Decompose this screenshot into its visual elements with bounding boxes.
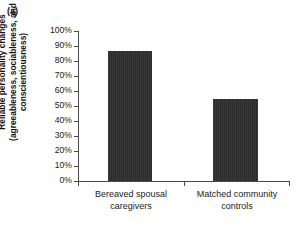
bar-bereaved-spousal-caregivers: [108, 51, 152, 182]
y-tick-mark: [74, 136, 78, 137]
y-tick-mark: [74, 106, 78, 107]
y-tick-label: 10%: [38, 160, 72, 171]
y-tick-label: 50%: [38, 100, 72, 111]
x-tick-mark-start: [78, 181, 79, 186]
x-tick-mark-end: [289, 181, 290, 186]
panel-label: (a): [7, 6, 18, 16]
y-tick-mark: [74, 121, 78, 122]
y-tick-label: 30%: [38, 130, 72, 141]
plot-area: 100% 90% 80% 70% 60% 50% 40% 30%: [78, 31, 290, 181]
y-tick-label: 0%: [38, 175, 72, 186]
y-tick-label: 100%: [38, 25, 72, 36]
x-axis-category-label-1: Matched community controls: [176, 189, 298, 212]
x-tick-mark-middle: [184, 181, 185, 186]
y-tick-label: 70%: [38, 70, 72, 81]
y-axis-title-line-3: conscientiousness): [18, 3, 29, 141]
y-axis-title-line-2: (agreeableness, sociableness, and: [8, 3, 19, 141]
category-0-line-2: caregivers: [70, 201, 192, 213]
bars-layer: [79, 31, 290, 181]
y-tick-mark: [74, 31, 78, 32]
y-axis-title: Reliable personality changes (agreeablen…: [0, 0, 33, 148]
y-tick-label: 60%: [38, 85, 72, 96]
y-tick-mark: [74, 166, 78, 167]
y-tick-label: 20%: [38, 145, 72, 156]
category-0-line-1: Bereaved spousal: [70, 189, 192, 201]
y-tick-mark: [74, 76, 78, 77]
bar-matched-community-controls: [213, 99, 258, 182]
y-axis-title-line-1: Reliable personality changes: [0, 3, 8, 141]
x-axis-category-label-0: Bereaved spousal caregivers: [70, 189, 192, 212]
y-tick-mark: [74, 151, 78, 152]
category-1-line-2: controls: [176, 201, 298, 213]
y-tick-label: 90%: [38, 40, 72, 51]
y-tick-mark: [74, 46, 78, 47]
y-tick-label: 80%: [38, 55, 72, 66]
y-tick-mark: [74, 91, 78, 92]
y-tick-mark: [74, 61, 78, 62]
y-tick-label: 40%: [38, 115, 72, 126]
figure-panel-a: (a) Reliable personality changes (agreea…: [0, 0, 299, 246]
category-1-line-1: Matched community: [176, 189, 298, 201]
